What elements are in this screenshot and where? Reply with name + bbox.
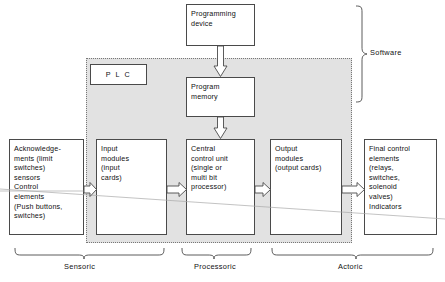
bracket-software [356,6,367,102]
bracket-processoric [182,248,251,259]
caption-processoric: Processoric [194,262,236,271]
box-plc-label: P L C [90,64,147,85]
caption-sensoric: Sensoric [64,262,95,271]
box-input-modules: Input modules (input cards) [96,139,167,235]
caption-software: Software [370,48,402,57]
box-final-control-elements: Final control elements (relays, switches… [364,139,437,235]
box-acknowledgements: Acknowledge- ments (limit switches) sens… [9,139,84,235]
box-central-control-unit: Central control unit (single or multi bi… [186,139,255,235]
box-program-memory: Program memory [186,77,255,117]
caption-actoric: Actoric [338,262,363,271]
box-programming-device: Programming device [186,4,255,46]
box-output-modules: Output modules (output cards) [270,139,342,235]
bracket-actoric [272,248,433,259]
bracket-sensoric [15,248,164,259]
plc-block-diagram: Programming device Program memory P L C … [0,0,445,282]
